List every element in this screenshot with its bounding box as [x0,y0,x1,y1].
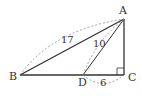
label-A: A [118,4,128,17]
right-angle-marker [117,68,124,75]
segment-AB [20,19,124,75]
label-B: B [9,70,17,83]
label-D: D [78,76,87,89]
triangle-diagram: A B C D 17 10 6 [0,0,142,96]
measure-AD: 10 [93,38,106,49]
measure-AB: 17 [61,34,74,45]
label-C: C [128,71,136,84]
measure-DC: 6 [100,77,106,88]
